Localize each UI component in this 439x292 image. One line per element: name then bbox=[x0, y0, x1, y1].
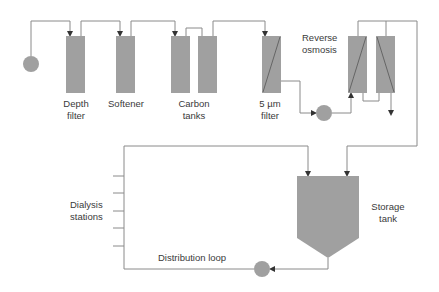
depth-filter-label: Depth filter bbox=[56, 98, 96, 122]
softener-label: Softener bbox=[100, 98, 152, 110]
pipe-softener-to-carbon bbox=[131, 21, 175, 36]
pipe-storage-to-pump bbox=[272, 258, 328, 269]
ro-pump-icon bbox=[316, 105, 332, 121]
carbon-tank-2 bbox=[198, 36, 217, 93]
carbon-tank-1 bbox=[171, 36, 190, 93]
pipe-distribution-return bbox=[124, 146, 308, 258]
depth-filter-tank bbox=[66, 36, 85, 93]
pipe-carbon-to-micron bbox=[213, 21, 265, 36]
water-treatment-diagram bbox=[0, 0, 439, 292]
softener-tank bbox=[116, 36, 135, 93]
feed-pump-icon bbox=[23, 56, 39, 72]
distribution-pump-icon bbox=[254, 261, 270, 277]
dialysis-stations-label: Dialysis stations bbox=[70, 199, 112, 223]
pipe-pump-to-ro bbox=[332, 95, 351, 113]
micron-filter-label: 5 µm filter bbox=[250, 98, 290, 122]
distribution-loop-label: Distribution loop bbox=[158, 252, 248, 264]
storage-tank bbox=[297, 176, 359, 258]
pipe-pump-to-depth-filter bbox=[31, 21, 70, 56]
pipe-depth-to-softener bbox=[81, 21, 120, 36]
dialysis-station-taps bbox=[113, 176, 124, 246]
pipe-carbon-link bbox=[186, 28, 202, 36]
pipe-ro-link bbox=[363, 93, 379, 101]
storage-tank-label: Storage tank bbox=[366, 201, 410, 225]
carbon-tanks-label: Carbon tanks bbox=[170, 98, 218, 122]
reverse-osmosis-label: Reverse osmosis bbox=[302, 32, 346, 56]
